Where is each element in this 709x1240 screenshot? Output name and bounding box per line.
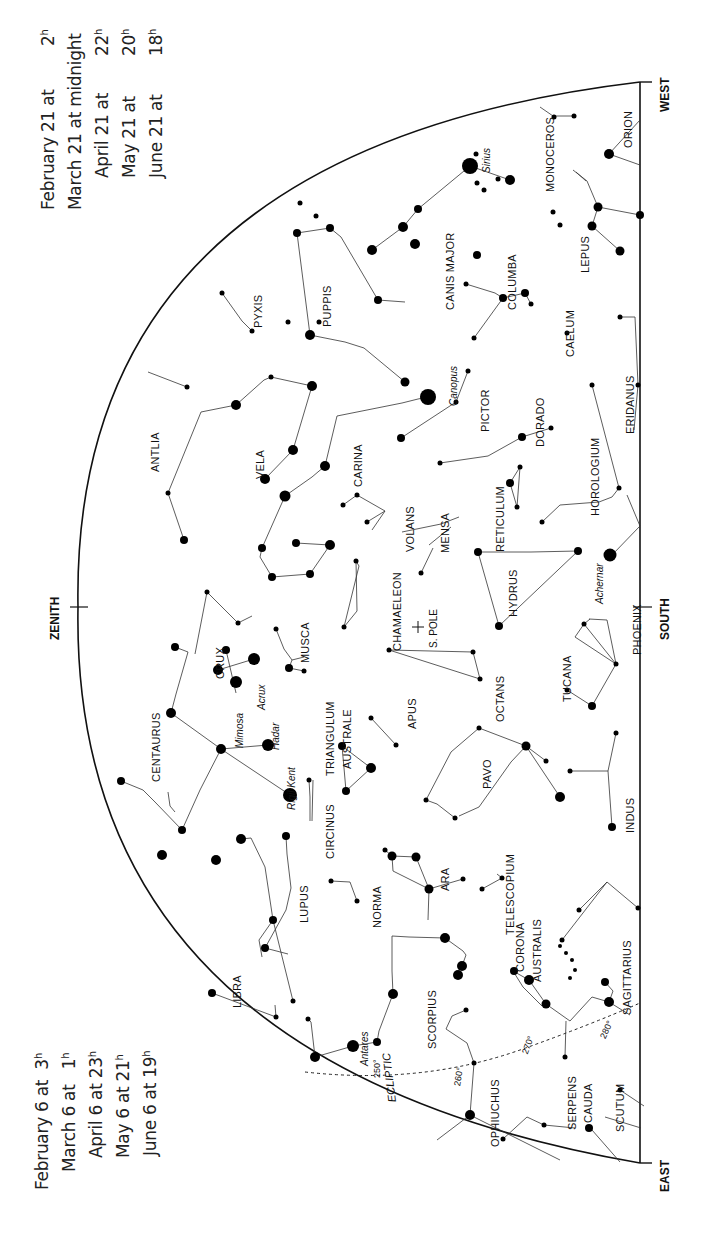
constellation-label: ARA bbox=[439, 868, 451, 891]
time-east-row: March 6 at 1h bbox=[59, 1053, 79, 1172]
constellation-label: HOROLOGIUM bbox=[589, 438, 601, 516]
constellation-label: COLUMBA bbox=[506, 254, 518, 310]
time-east-row: February 6 at 3h bbox=[32, 1053, 52, 1190]
constellation-label: CARINA bbox=[352, 444, 364, 487]
star-name-label: Acrux bbox=[256, 684, 267, 710]
star-name-label: Achernar bbox=[594, 563, 605, 604]
time-west-row: April 21 at bbox=[92, 93, 112, 178]
constellation-label: TUCANA bbox=[561, 655, 573, 701]
constellation-label: CAUDA bbox=[582, 1083, 594, 1123]
time-west-row: May 21 at bbox=[119, 96, 139, 178]
star-name-label: Canopus bbox=[448, 366, 459, 406]
south-pole-label: S. POLE bbox=[428, 609, 439, 648]
time-west-row: 22h bbox=[92, 29, 112, 56]
time-west-row: 2h bbox=[38, 29, 58, 46]
time-west-row: 20h bbox=[119, 29, 139, 56]
stars bbox=[117, 114, 644, 1142]
constellation-label: LIBRA bbox=[231, 975, 243, 1008]
ecliptic-degree: 250° bbox=[372, 1059, 382, 1078]
constellation-label: AUSTRALE bbox=[341, 709, 353, 769]
constellation-label: ANTLIA bbox=[149, 432, 161, 472]
constellation-label: SAGITTARIUS bbox=[621, 940, 633, 1015]
constellation-lines bbox=[121, 107, 644, 1162]
constellation-label: PAVO bbox=[481, 760, 493, 790]
constellation-label: AUSTRALIS bbox=[531, 919, 543, 982]
constellation-label: CIRCINUS bbox=[324, 804, 336, 859]
star-name-label: Rigil Kent bbox=[286, 767, 297, 810]
constellation-label: CAELUM bbox=[564, 310, 576, 357]
constellation-label: SCUTUM bbox=[614, 1083, 626, 1131]
constellation-label: VELA bbox=[254, 450, 266, 479]
star-name-label: Hadar bbox=[270, 723, 281, 750]
south-label: SOUTH bbox=[658, 598, 672, 640]
constellation-label: OPHIUCHUS bbox=[489, 1080, 501, 1148]
time-east-row: May 6 at 21h bbox=[113, 1054, 133, 1158]
constellation-label: PICTOR bbox=[479, 389, 491, 432]
time-west-row: June 21 at bbox=[146, 94, 166, 178]
constellation-label: PHOENIX bbox=[631, 604, 643, 655]
constellation-label: HYDRUS bbox=[507, 569, 519, 617]
time-west-row: March 21 at midnight bbox=[65, 33, 85, 210]
constellation-label: VOLANS bbox=[404, 506, 416, 552]
horizon-arc bbox=[78, 82, 640, 1163]
constellation-label: SCORPIUS bbox=[426, 990, 438, 1049]
constellation-label: SERPENS bbox=[566, 1076, 578, 1130]
south-pole-marker-icon bbox=[412, 621, 424, 633]
constellation-label: PYXIS bbox=[252, 295, 264, 328]
constellation-label: LEPUS bbox=[579, 236, 591, 273]
time-east-row: April 6 at 23h bbox=[86, 1051, 106, 1158]
constellation-label: ORION bbox=[622, 111, 634, 148]
star-name-label: Mimosa bbox=[234, 713, 245, 748]
constellation-label: INDUS bbox=[624, 798, 636, 833]
constellation-label: CRUX bbox=[214, 647, 226, 679]
west-label: WEST bbox=[658, 77, 672, 112]
star-chart bbox=[0, 0, 709, 1240]
constellation-label: CORONA bbox=[514, 922, 526, 971]
east-label: EAST bbox=[658, 1160, 672, 1192]
constellation-label: ERIDANUS bbox=[624, 375, 636, 433]
constellation-label: MUSCA bbox=[299, 622, 311, 663]
constellation-label: LUPUS bbox=[298, 885, 310, 923]
zenith-label: ZENITH bbox=[48, 597, 62, 640]
constellation-label: CENTAURUS bbox=[150, 713, 162, 782]
constellation-label: TRIANGULUM bbox=[324, 701, 336, 776]
constellation-label: CANIS MAJOR bbox=[444, 232, 456, 309]
constellation-label: PUPPIS bbox=[321, 285, 333, 327]
constellation-label: MONOCEROS bbox=[544, 117, 556, 192]
star-name-label: Sirius bbox=[481, 148, 492, 173]
constellation-label: CHAMAELEON bbox=[391, 572, 403, 651]
constellation-label: DORADO bbox=[534, 397, 546, 446]
time-east-row: June 6 at 19h bbox=[140, 1051, 160, 1156]
constellation-label: RETICULUM bbox=[494, 486, 506, 552]
time-west-row: 18h bbox=[146, 29, 166, 56]
star-name-label: Antares bbox=[359, 1032, 370, 1066]
constellation-label: OCTANS bbox=[494, 675, 506, 721]
constellation-label: NORMA bbox=[371, 886, 383, 928]
constellation-label: MENSA bbox=[439, 513, 451, 553]
constellation-label: APUS bbox=[406, 699, 418, 730]
